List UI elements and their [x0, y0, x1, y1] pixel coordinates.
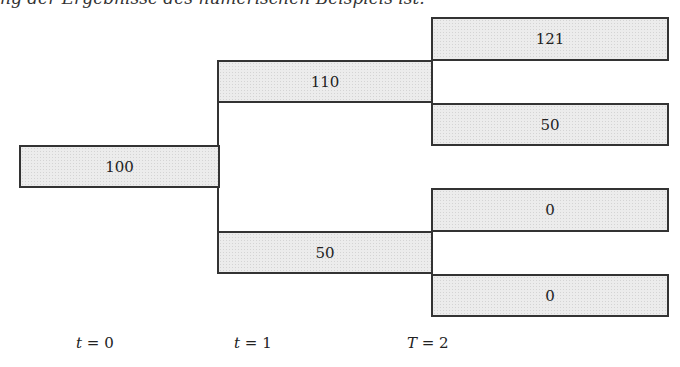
- node-t2-dd: 0: [431, 274, 669, 317]
- node-value: 121: [536, 30, 565, 48]
- node-t1-down: 50: [217, 231, 433, 274]
- time-label-t0: t = 0: [76, 334, 114, 352]
- node-value: 50: [315, 244, 334, 262]
- node-t0: 100: [19, 145, 220, 188]
- node-value: 50: [540, 116, 559, 134]
- node-t2-ud: 50: [431, 103, 669, 146]
- node-t2-du: 0: [431, 188, 669, 232]
- node-value: 110: [311, 73, 340, 91]
- caption-text: ng der Ergebnisse des numerischen Beispi…: [0, 0, 425, 8]
- node-value: 0: [545, 201, 555, 219]
- time-label-t1: t = 1: [234, 334, 272, 352]
- node-value: 0: [545, 287, 555, 305]
- node-t2-uu: 121: [431, 17, 669, 61]
- node-value: 100: [105, 158, 134, 176]
- time-label-t2: T = 2: [407, 334, 449, 352]
- node-t1-up: 110: [217, 60, 433, 103]
